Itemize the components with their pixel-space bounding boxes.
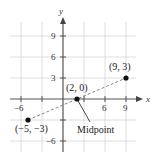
x-axis-arrow-icon [136, 96, 143, 102]
tick-label-y-neg6: −6 [46, 136, 56, 146]
midpoint-leader-line [77, 99, 90, 122]
y-axis-arrow-icon [60, 17, 66, 24]
x-axis-label: x [145, 94, 150, 104]
midpoint-annotation: Midpoint [77, 124, 114, 135]
point-a-marker [25, 117, 30, 122]
midpoint-diagram: y x −6 6 9 9 6 3 −6 (−5, −3) (2, 0) (9, … [0, 0, 157, 163]
y-axis-label: y [58, 6, 63, 16]
point-b-label: (9, 3) [109, 61, 131, 73]
tick-label-x-neg6: −6 [14, 103, 24, 113]
tick-label-y-3: 3 [51, 73, 56, 83]
tick-label-x-6: 6 [102, 103, 107, 113]
tick-label-x-9: 9 [123, 103, 128, 113]
tick-label-y-6: 6 [51, 52, 56, 62]
tick-label-y-9: 9 [51, 31, 56, 41]
point-a-label: (−5, −3) [15, 123, 48, 135]
point-midpoint-marker [74, 96, 79, 101]
point-midpoint-label: (2, 0) [66, 82, 88, 94]
point-b-marker [123, 75, 128, 80]
